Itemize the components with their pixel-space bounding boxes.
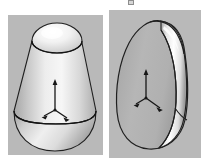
- dome-specular-highlight: [41, 27, 63, 39]
- solid-model-right: [109, 10, 201, 158]
- figure-root: Left view: cone with spherical dome cap …: [0, 0, 207, 166]
- axes-origin-point: [145, 97, 148, 100]
- view-panel-right: Right view: same solid rotated, sectione…: [109, 10, 201, 158]
- axes-origin-point: [54, 109, 57, 112]
- view-panel-left: Left view: cone with spherical dome cap …: [8, 15, 103, 155]
- solid-model-left: [8, 15, 103, 155]
- stray-square-mark: [128, 0, 134, 5]
